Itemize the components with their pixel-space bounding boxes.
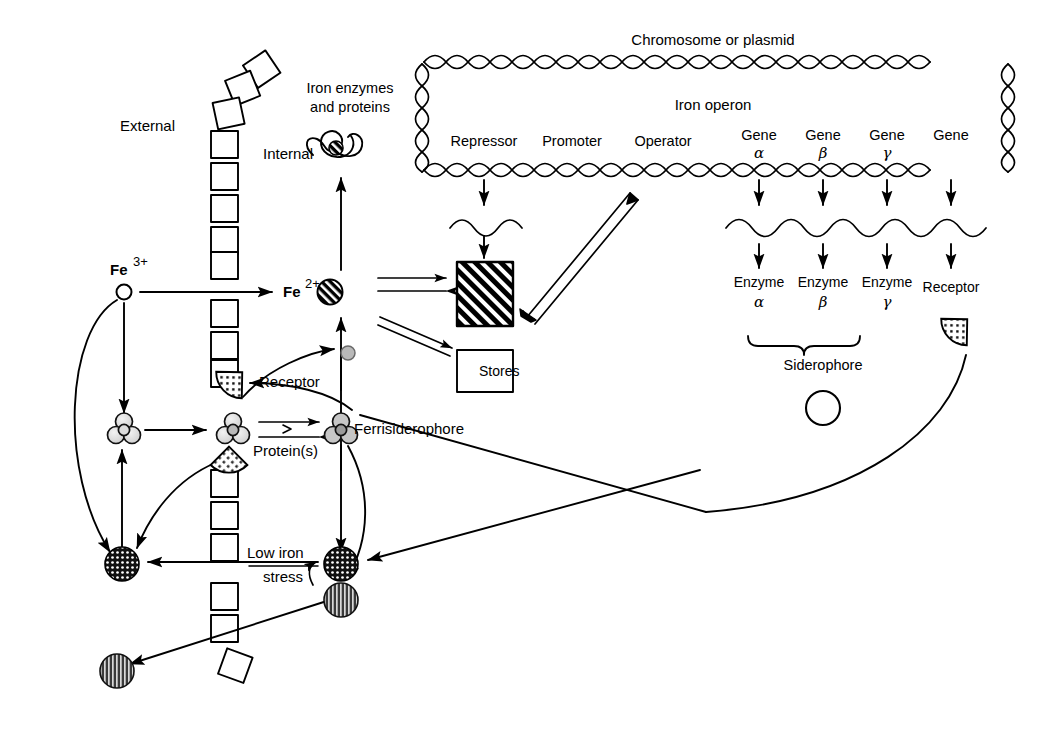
external-label: External bbox=[120, 118, 175, 135]
product-enzyme-alpha-sub: α bbox=[754, 294, 764, 311]
crosshatch-circle-icon bbox=[324, 547, 358, 581]
receptor-wedge-icon bbox=[211, 319, 968, 484]
product-enzyme-alpha: Enzyme bbox=[734, 275, 785, 291]
fe3-element-label: Fe bbox=[110, 262, 128, 279]
figure-canvas: Chromosome or plasmid Iron operon Repres… bbox=[0, 0, 1056, 732]
operon-element-gene-gamma: Gene bbox=[869, 127, 904, 143]
siderophore-label: Siderophore bbox=[784, 357, 863, 373]
product-enzyme-beta-sub: β bbox=[819, 294, 828, 311]
vertical-stripe-circle-icon bbox=[324, 583, 358, 617]
operon-element-gene-beta-sub: β bbox=[819, 145, 828, 162]
product-enzyme-beta: Enzyme bbox=[798, 275, 849, 291]
stores-label: Stores bbox=[479, 364, 519, 380]
operon-element-gene-alpha: Gene bbox=[741, 127, 776, 143]
internal-label: Internal bbox=[263, 146, 313, 163]
product-enzyme-gamma-sub: γ bbox=[883, 294, 892, 311]
operon-element-gene-gamma-sub: γ bbox=[883, 145, 892, 162]
low-iron-label: Low iron bbox=[247, 545, 304, 562]
operon-element-gene-alpha-sub: α bbox=[754, 145, 764, 162]
fe2-charge-label: 2+ bbox=[305, 277, 320, 292]
pathway-diagram bbox=[0, 0, 1056, 732]
small-iron-circle-icon bbox=[341, 346, 355, 360]
receptor-membrane-label: Receptor bbox=[259, 374, 320, 391]
stress-label: stress bbox=[263, 569, 303, 586]
operon-element-promoter: Promoter bbox=[542, 133, 602, 149]
operon-element-repressor: Repressor bbox=[451, 133, 518, 149]
siderophore-cluster-icon bbox=[108, 413, 358, 444]
chromosome-title: Chromosome or plasmid bbox=[631, 32, 794, 49]
crosshatch-circle-icon bbox=[105, 547, 139, 581]
iron-enzymes-label: Iron enzymes bbox=[306, 80, 393, 96]
ferrisiderophore-label: Ferrisiderophore bbox=[354, 421, 464, 438]
dna-double-helix-icon bbox=[424, 56, 930, 69]
product-enzyme-gamma: Enzyme bbox=[862, 275, 913, 291]
product-receptor: Receptor bbox=[923, 280, 980, 296]
operon-element-operator: Operator bbox=[634, 133, 691, 149]
fe2-element-label: Fe bbox=[283, 284, 301, 301]
siderophore-circle-icon bbox=[806, 391, 840, 425]
iron-proteins-label: and proteins bbox=[310, 99, 390, 115]
proteins-label: Protein(s) bbox=[253, 443, 318, 460]
striped-circle-icon bbox=[318, 280, 343, 305]
operon-element-gene: Gene bbox=[933, 127, 968, 143]
operon-element-gene-beta: Gene bbox=[805, 127, 840, 143]
vertical-stripe-circle-icon bbox=[100, 654, 134, 688]
operon-title: Iron operon bbox=[675, 97, 752, 114]
fe3-charge-label: 3+ bbox=[133, 255, 148, 270]
